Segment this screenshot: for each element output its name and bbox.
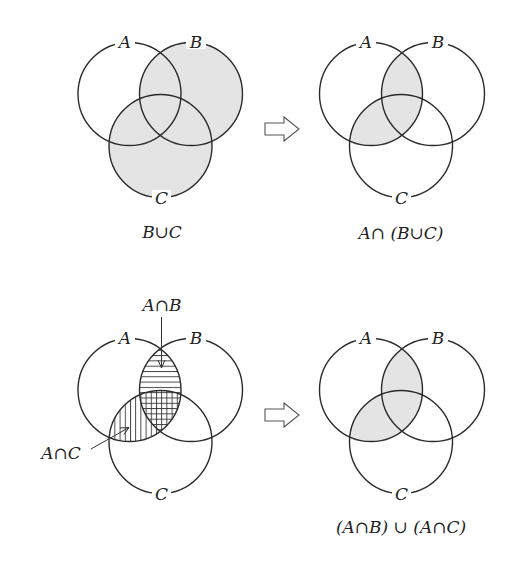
label-b: B	[431, 328, 445, 348]
shaded-ab-union-ac	[350, 339, 485, 494]
label-b: B	[189, 32, 203, 52]
label-c: C	[155, 484, 168, 504]
caption-ab-union-ac: (A∩B) ∪ (A∩C)	[336, 517, 466, 537]
callout-a-intersect-c: A∩C	[39, 443, 81, 463]
label-c: C	[155, 188, 168, 208]
label-b: B	[189, 328, 203, 348]
panel-b-union-c: A B C B∪C	[78, 32, 243, 242]
panel-ab-union-ac: A B C (A∩B) ∪ (A∩C)	[320, 328, 485, 537]
label-c: C	[395, 484, 408, 504]
venn-distributive-law-figure: A B C B∪C A B C A∩ (B∪C)	[0, 0, 515, 562]
label-b: B	[431, 32, 445, 52]
label-a: A	[358, 32, 372, 52]
shaded-b-union-c	[109, 43, 243, 198]
hollow-right-arrow-icon	[265, 117, 299, 141]
caption-b-union-c: B∪C	[141, 222, 182, 242]
label-a: A	[117, 328, 131, 348]
caption-a-intersect-b-union-c: A∩ (B∪C)	[357, 223, 444, 243]
panel-a-intersect-b-union-c: A B C A∩ (B∪C)	[320, 32, 485, 243]
shaded-a-intersect-b-union-c	[350, 43, 485, 198]
label-a: A	[358, 328, 372, 348]
hollow-right-arrow-icon	[265, 403, 299, 427]
panel-hatched-intersections: A B C A∩B A∩C	[39, 295, 242, 504]
label-c: C	[395, 188, 408, 208]
callout-a-intersect-b: A∩B	[140, 295, 181, 315]
label-a: A	[117, 32, 131, 52]
